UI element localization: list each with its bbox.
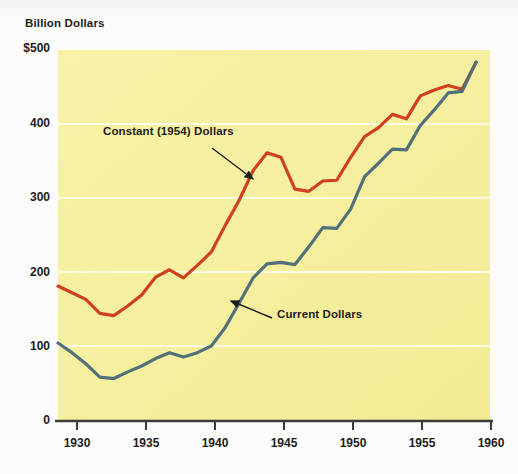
- annotation-label-constant-dollars: Constant (1954) Dollars: [103, 125, 234, 137]
- xtick-label-1950: 1950: [323, 436, 383, 450]
- ytick-label-0: 0: [4, 413, 50, 427]
- xtick-label-1935: 1935: [116, 436, 176, 450]
- ytick-label-400: 400: [4, 116, 50, 130]
- x-axis-ticks: [77, 421, 491, 430]
- xtick-label-1930: 1930: [47, 436, 107, 450]
- plot-canvas: [0, 0, 518, 474]
- annotation-label-current-dollars: Current Dollars: [277, 308, 362, 320]
- ytick-label-500: $500: [4, 41, 50, 55]
- plot-background: [58, 50, 490, 420]
- ytick-label-100: 100: [4, 339, 50, 353]
- xtick-label-1945: 1945: [254, 436, 314, 450]
- xtick-label-1955: 1955: [392, 436, 452, 450]
- chart-figure: Billion Dollars: [0, 0, 518, 474]
- xtick-label-1940: 1940: [185, 436, 245, 450]
- ytick-label-200: 200: [4, 265, 50, 279]
- xtick-label-1960: 1960: [461, 436, 518, 450]
- ytick-label-300: 300: [4, 190, 50, 204]
